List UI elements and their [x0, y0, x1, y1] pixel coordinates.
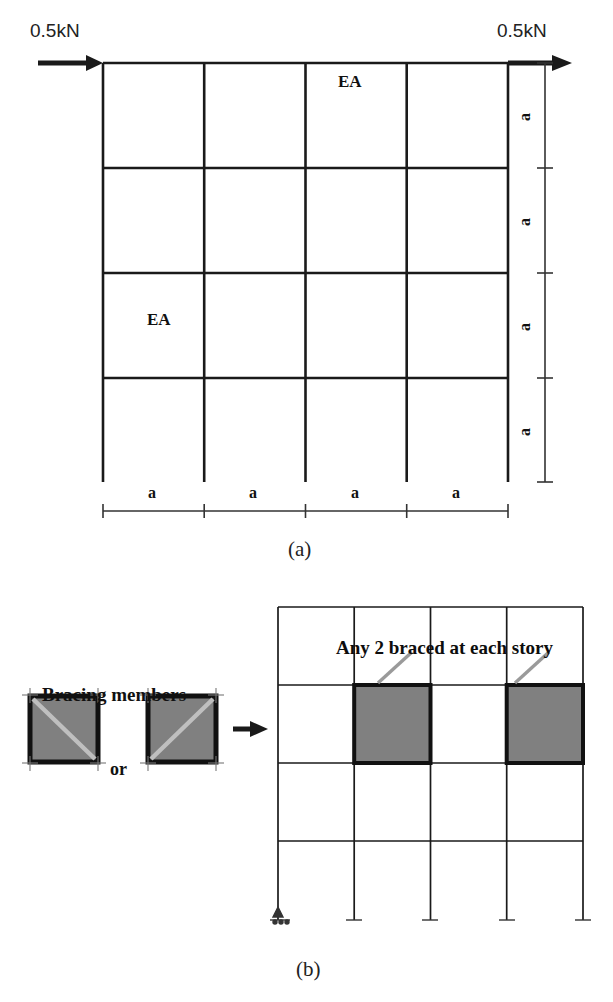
figure-caption-a: (a) [288, 537, 311, 562]
member-label-ea-left: EA [147, 310, 171, 330]
braced-panel-bay-4 [507, 685, 583, 763]
story-dimension-label-4: a [516, 422, 534, 442]
bay-dimension-label-1: a [148, 484, 156, 502]
figure-caption-b: (b) [296, 957, 321, 982]
story-dimension-label-2: a [516, 212, 534, 232]
story-dimension-label-3: a [516, 317, 534, 337]
load-arrow-left [38, 55, 103, 71]
member-label-ea-top: EA [338, 72, 362, 92]
horizontal-dimension-line [103, 504, 508, 518]
story-dimension-label-1: a [516, 107, 534, 127]
braced-panel-bay-2 [354, 685, 430, 763]
load-label-right: 0.5kN [497, 20, 547, 42]
bay-dimension-label-3: a [351, 484, 359, 502]
panel-a-drawing [0, 0, 613, 575]
transition-arrow [233, 721, 268, 737]
or-label: or [110, 759, 127, 780]
braced-story-annotation: Any 2 braced at each story [336, 637, 553, 659]
bay-dimension-label-2: a [249, 484, 257, 502]
vertical-dimension-line [537, 63, 553, 482]
load-label-left: 0.5kN [30, 20, 80, 42]
bay-dimension-label-4: a [452, 484, 460, 502]
bracing-members-title: Bracing members [42, 684, 186, 706]
figure-canvas: 0.5kN 0.5kN EA EA a a a a a a a a (a) [0, 0, 613, 1002]
